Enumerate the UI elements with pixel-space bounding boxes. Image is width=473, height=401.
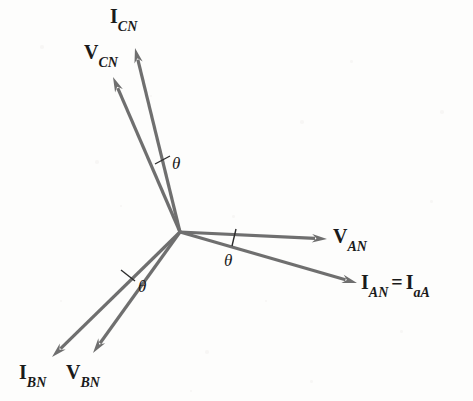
- vector-subscript: BN: [27, 375, 46, 390]
- phasor-svg: [0, 0, 473, 401]
- vector-subscript: AN: [369, 285, 388, 300]
- vector-subscript: BN: [80, 375, 99, 390]
- vector-label-v-an: VAN: [333, 226, 367, 251]
- vector-subscript: AN: [347, 239, 366, 254]
- vector-subscript: CN: [98, 55, 117, 70]
- vector-symbol: V: [66, 361, 80, 383]
- angle-label-theta-b: θ: [138, 278, 146, 295]
- angle-tick-layer: [121, 156, 236, 281]
- vector-symbol: I: [19, 361, 27, 383]
- vector-subscript: CN: [118, 19, 137, 34]
- vector-label-i-an: IAN=IaA: [361, 272, 430, 297]
- vector-label-i-cn: ICN: [110, 6, 137, 31]
- phasor-shaft: [61, 232, 180, 349]
- vector-symbol: I: [110, 5, 118, 27]
- angle-label-theta-a: θ: [224, 252, 232, 269]
- vector-label-i-bn: IBN: [19, 362, 46, 387]
- vector-label-v-bn: VBN: [66, 362, 100, 387]
- phasor-arrow-v-bn: [93, 232, 180, 353]
- angle-tick-theta-b: [121, 270, 135, 281]
- phasor-diagram: VAN IAN=IaA VCN ICN VBN IBN θ θ θ: [0, 0, 473, 401]
- equals-sign: =: [388, 271, 405, 293]
- vector-symbol: I: [361, 271, 369, 293]
- vector-label-v-cn: VCN: [84, 42, 118, 67]
- vector-layer: [52, 48, 357, 357]
- vector-symbol: V: [333, 225, 347, 247]
- vector-symbol: V: [84, 41, 98, 63]
- phasor-arrow-i-an: [180, 232, 357, 283]
- vector-subscript-alt: aA: [413, 285, 429, 300]
- angle-label-theta-c: θ: [172, 155, 180, 172]
- phasor-arrow-i-bn: [52, 232, 180, 357]
- angle-tick-theta-a: [232, 229, 236, 246]
